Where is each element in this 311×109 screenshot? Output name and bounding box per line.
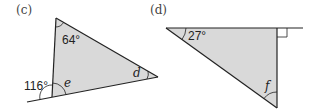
angle-top-left-d: 27° (188, 29, 206, 43)
angle-top-c: 64° (62, 33, 80, 47)
right-angle-marker (277, 28, 287, 37)
angle-e: e (64, 76, 71, 90)
angle-d: d (133, 66, 141, 80)
figure-d: (d) 27° f (150, 3, 303, 108)
figure-label-d: (d) (150, 3, 167, 17)
angle-exterior-c: 116° (24, 79, 48, 93)
figure-c: (c) 64° 116° e d (16, 3, 158, 102)
figure-label-c: (c) (16, 3, 32, 17)
diagram: (c) 64° 116° e d (d) 27° f (0, 0, 311, 109)
